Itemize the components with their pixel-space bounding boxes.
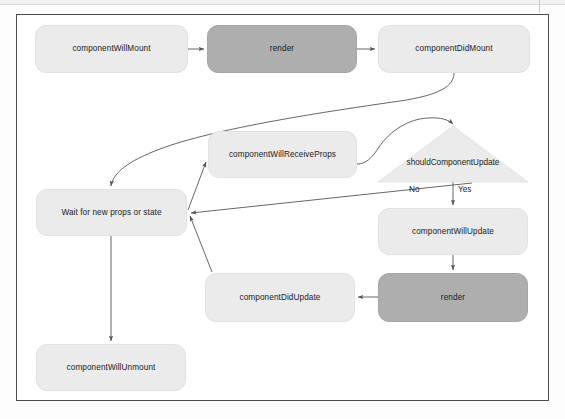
edge-didupdate-to-wait <box>190 216 212 272</box>
node-label: componentWillReceiveProps <box>229 150 336 159</box>
node-label: componentDidMount <box>415 44 492 53</box>
node-label: render <box>270 44 294 53</box>
node-wait-for-new-props-or-state[interactable]: Wait for new props or state <box>36 189 187 236</box>
edge-label-no: No <box>409 185 419 194</box>
node-label: componentWillMount <box>72 44 150 53</box>
node-label: componentDidUpdate <box>240 293 321 302</box>
edge-wait-to-willreceiveprops <box>188 162 206 210</box>
node-component-did-mount[interactable]: componentDidMount <box>378 25 530 73</box>
node-label: shouldComponentUpdate <box>378 158 528 167</box>
figure-page: componentWillMount render componentDidMo… <box>0 0 565 419</box>
node-component-will-unmount[interactable]: componentWillUnmount <box>36 344 186 391</box>
node-component-will-mount[interactable]: componentWillMount <box>35 25 188 73</box>
node-render-mount[interactable]: render <box>207 25 357 73</box>
node-render-update[interactable]: render <box>378 273 528 322</box>
node-component-did-update[interactable]: componentDidUpdate <box>205 273 355 322</box>
node-component-will-update[interactable]: componentWillUpdate <box>378 208 528 255</box>
node-should-component-update[interactable]: shouldComponentUpdate <box>378 126 528 182</box>
node-label: render <box>441 293 465 302</box>
node-label: Wait for new props or state <box>61 208 161 217</box>
node-label: componentWillUpdate <box>412 227 494 236</box>
node-component-will-receive-props[interactable]: componentWillReceiveProps <box>208 131 357 178</box>
node-label: componentWillUnmount <box>67 363 156 372</box>
edge-label-yes: Yes <box>458 185 471 194</box>
